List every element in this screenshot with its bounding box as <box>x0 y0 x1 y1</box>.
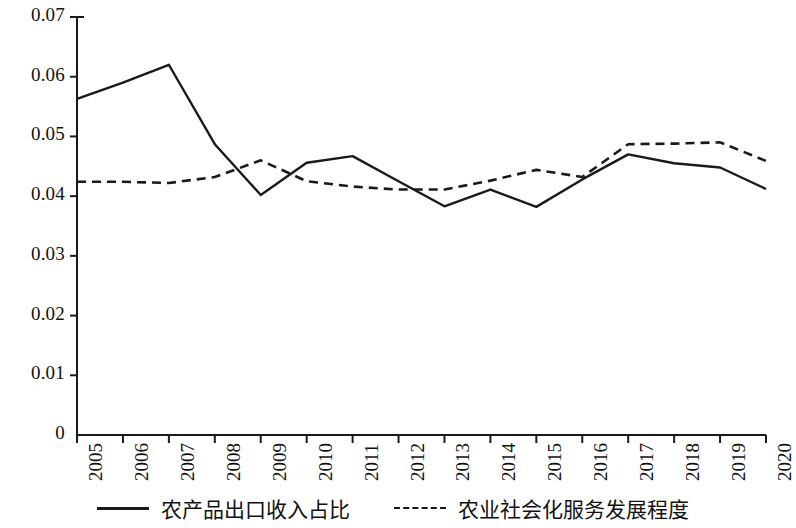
x-axis-tick-label: 2010 <box>315 443 337 481</box>
y-axis-tick-label: 0.01 <box>31 362 65 384</box>
y-axis-tick-label: 0.05 <box>31 123 65 145</box>
x-axis-tick-label: 2006 <box>131 443 153 481</box>
x-axis-tick-label: 2015 <box>544 443 566 481</box>
x-axis-tick-label: 2017 <box>636 443 658 481</box>
series-line-1 <box>77 65 766 207</box>
y-axis-tick-label: 0.02 <box>31 303 65 325</box>
x-axis-tick-label: 2020 <box>774 443 796 481</box>
legend-label: 农业社会化服务发展程度 <box>458 493 689 523</box>
x-axis-tick-label: 2011 <box>361 444 383 481</box>
x-axis-tick-label: 2019 <box>728 443 750 481</box>
x-axis-tick-label: 2013 <box>452 443 474 481</box>
y-axis-tick-label: 0.04 <box>31 183 65 205</box>
y-axis-tick-label: 0 <box>55 422 65 444</box>
y-axis-tick-label: 0.07 <box>31 4 65 26</box>
x-axis-tick-label: 2014 <box>498 443 520 481</box>
solid-line-icon <box>97 501 149 515</box>
chart-legend: 农产品出口收入占比农业社会化服务发展程度 <box>0 488 786 528</box>
legend-entry-2[interactable]: 农业社会化服务发展程度 <box>394 493 689 523</box>
y-axis-tick-label: 0.06 <box>31 64 65 86</box>
x-axis-tick-label: 2007 <box>177 443 199 481</box>
x-axis-tick-label: 2009 <box>269 443 291 481</box>
legend-entry-1[interactable]: 农产品出口收入占比 <box>97 493 350 523</box>
x-axis-tick-label: 2008 <box>223 443 245 481</box>
x-axis-tick-label: 2016 <box>590 443 612 481</box>
x-axis-tick-label: 2005 <box>85 443 107 481</box>
legend-label: 农产品出口收入占比 <box>161 493 350 523</box>
dashed-line-icon <box>394 501 446 515</box>
series-line-2 <box>77 142 766 189</box>
x-axis-tick-label: 2018 <box>682 443 704 481</box>
x-axis-tick-label: 2012 <box>407 443 429 481</box>
chart-axes <box>70 17 766 443</box>
y-axis-tick-label: 0.03 <box>31 243 65 265</box>
chart-series-group <box>77 65 766 207</box>
